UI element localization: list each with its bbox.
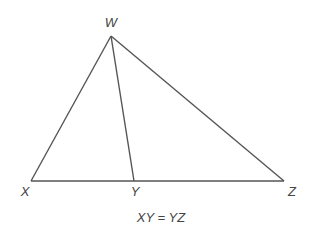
vertex-label-w: W xyxy=(105,16,117,29)
segment-wx xyxy=(31,36,111,181)
vertex-label-x: X xyxy=(21,185,30,198)
segment-wz xyxy=(111,36,284,181)
segment-wy xyxy=(111,36,134,181)
vertex-label-y: Y xyxy=(131,185,140,198)
diagram-caption: XY = YZ xyxy=(137,211,185,224)
triangle-diagram xyxy=(0,0,312,235)
vertex-label-z: Z xyxy=(288,185,296,198)
